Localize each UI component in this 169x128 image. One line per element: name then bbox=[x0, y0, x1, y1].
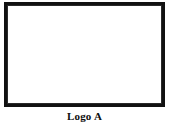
logo-strokes bbox=[15, 10, 156, 101]
logo-line-drawing bbox=[7, 5, 162, 104]
figure-caption: Logo A bbox=[0, 109, 169, 123]
figure-logo-a: Logo A bbox=[0, 0, 169, 128]
axis-rails bbox=[13, 9, 157, 101]
stroke-path-a bbox=[15, 10, 156, 101]
